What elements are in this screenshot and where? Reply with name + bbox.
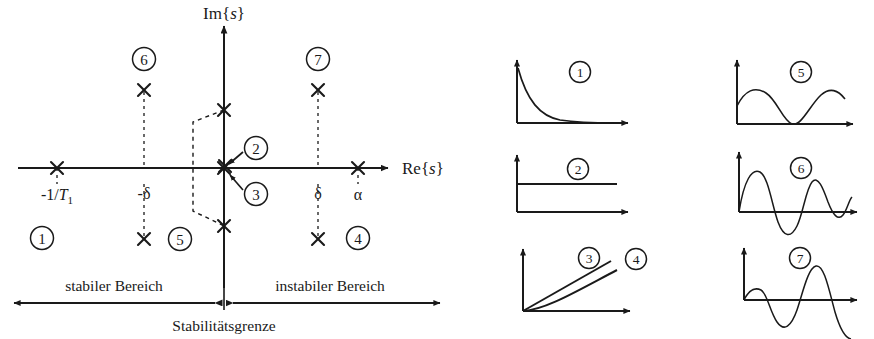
svg-text:2: 2	[575, 162, 582, 177]
svg-text:5: 5	[798, 65, 805, 80]
svg-text:1: 1	[577, 65, 584, 80]
region-number-4: 4	[347, 227, 370, 250]
imaginary-axis-label: Im{s}	[203, 4, 245, 23]
response-1-curve	[518, 68, 614, 123]
stable-region-label: stabiler Bereich	[65, 277, 163, 294]
response-4-number: 4	[626, 249, 647, 270]
response-plot-3-4: 3 4	[523, 248, 647, 312]
response-plot-1: 1	[517, 60, 628, 123]
tick-leader-lines	[57, 92, 358, 237]
svg-text:2: 2	[252, 141, 260, 157]
svg-text:4: 4	[633, 252, 640, 267]
tick-label-minus-delta: -δ	[138, 185, 151, 202]
response-plot-2: 2	[517, 155, 628, 212]
response-5-curve	[737, 90, 845, 125]
region-number-1: 1	[31, 227, 54, 250]
response-3-number: 3	[579, 248, 600, 269]
response-plot-6: 6	[739, 152, 857, 235]
response-plot-7: 7	[744, 248, 857, 339]
response-6-number: 6	[791, 158, 812, 179]
response-1-number: 1	[570, 62, 591, 83]
s-plane-diagram: Im{s} Re{s}	[0, 0, 874, 339]
svg-text:3: 3	[252, 187, 260, 203]
region-number-5: 5	[169, 228, 192, 251]
region-number-2: 2	[245, 137, 268, 160]
figure-root: Im{s} Re{s}	[0, 0, 874, 339]
response-plot-5: 5	[737, 60, 853, 124]
real-axis-label: Re{s}	[402, 159, 444, 178]
pointer-arrow-region-3	[230, 175, 243, 190]
response-4-curve	[523, 270, 617, 311]
response-3-curve	[523, 261, 611, 311]
svg-text:4: 4	[354, 231, 362, 247]
response-6-curve	[739, 171, 852, 234]
response-7-number: 7	[790, 248, 811, 269]
stability-boundary-label: Stabilitätsgrenze	[172, 317, 275, 334]
response-2-number: 2	[568, 159, 589, 180]
svg-text:7: 7	[797, 251, 804, 266]
response-7-curve	[744, 266, 851, 339]
svg-text:1: 1	[38, 231, 46, 247]
svg-text:3: 3	[586, 251, 593, 266]
svg-text:5: 5	[176, 232, 184, 248]
tick-label-alpha: α	[354, 186, 363, 203]
pole-markers	[51, 84, 364, 245]
svg-text:6: 6	[798, 161, 805, 176]
tick-label-minus-one-over-T1: -1/T1	[41, 186, 73, 206]
svg-text:7: 7	[314, 52, 322, 68]
svg-text:6: 6	[140, 52, 148, 68]
unstable-region-label: instabiler Bereich	[275, 277, 385, 294]
region-number-6: 6	[133, 48, 156, 71]
response-5-number: 5	[791, 62, 812, 83]
region-number-7: 7	[307, 48, 330, 71]
tick-label-delta: δ	[314, 185, 322, 202]
pointer-arrow-region-2	[229, 152, 243, 164]
region-number-3: 3	[245, 183, 268, 206]
